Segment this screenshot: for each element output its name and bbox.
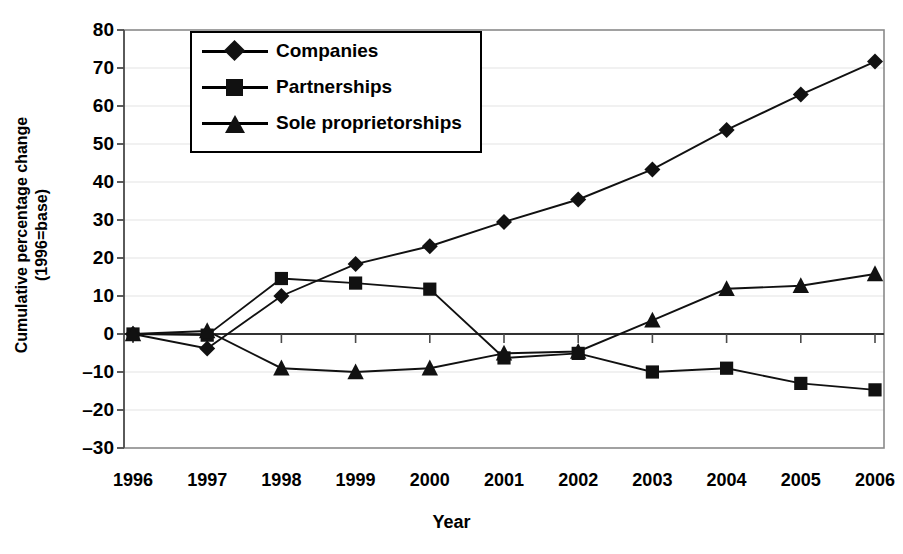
legend-marker-triangle (225, 115, 245, 133)
marker-diamond (199, 340, 215, 356)
marker-square (794, 377, 807, 390)
legend-symbol (202, 40, 268, 62)
legend-symbol (202, 112, 268, 134)
marker-square (720, 362, 733, 375)
legend-symbol (202, 76, 268, 98)
marker-diamond (570, 191, 586, 207)
legend-label: Partnerships (276, 76, 392, 98)
marker-diamond (273, 288, 289, 304)
legend-marker-square (226, 79, 243, 96)
legend-item[interactable]: Sole proprietorships (192, 105, 480, 141)
legend-label: Sole proprietorships (276, 112, 462, 134)
chart-figure: Cumulative percentage change (1996=base)… (0, 0, 903, 554)
legend-marker-diamond (224, 40, 245, 61)
legend-item[interactable]: Companies (192, 33, 480, 69)
marker-triangle (273, 360, 289, 376)
marker-diamond (422, 238, 438, 254)
marker-diamond (793, 87, 809, 103)
chart-legend: CompaniesPartnershipsSole proprietorship… (190, 31, 482, 153)
marker-square (868, 383, 881, 396)
marker-triangle (644, 312, 660, 328)
legend-item[interactable]: Partnerships (192, 69, 480, 105)
legend-label: Companies (276, 40, 378, 62)
marker-square (275, 272, 288, 285)
marker-diamond (719, 122, 735, 138)
marker-diamond (496, 214, 512, 230)
marker-triangle (867, 265, 883, 281)
marker-square (349, 276, 362, 289)
marker-square (423, 283, 436, 296)
marker-diamond (644, 161, 660, 177)
x-axis-title: Year (0, 512, 903, 533)
marker-square (646, 365, 659, 378)
marker-diamond (867, 54, 883, 70)
